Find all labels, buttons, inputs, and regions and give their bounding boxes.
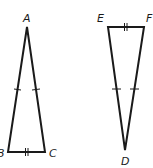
diagram-canvas: A B C E F D [0, 0, 153, 168]
vertex-label-e: E [97, 12, 104, 25]
vertex-label-f: F [146, 12, 153, 25]
tick-ac [32, 89, 40, 90]
tick-ab [14, 89, 21, 90]
triangle-abc: A B C [0, 12, 57, 160]
vertex-label-a: A [22, 12, 31, 25]
triangle-def: E F D [97, 12, 153, 168]
vertex-label-c: C [49, 147, 57, 160]
vertex-label-d: D [121, 155, 129, 168]
vertex-label-b: B [0, 147, 5, 160]
